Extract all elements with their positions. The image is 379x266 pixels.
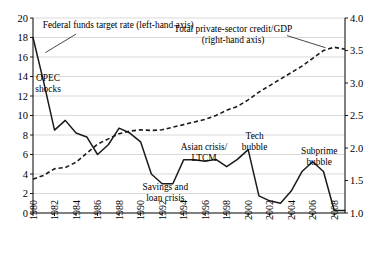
x-tick-label: 1980	[28, 200, 39, 220]
x-tick-label: 1986	[92, 200, 103, 220]
data-series-layer	[33, 38, 345, 211]
left-axis-ticks: 02468101214161820	[18, 13, 34, 219]
x-tick-label: 2000	[243, 200, 254, 220]
x-tick-label: 1996	[200, 200, 211, 220]
left-tick-label: 10	[18, 110, 29, 121]
left-tick-label: 16	[18, 52, 29, 63]
annotation-labels: Federal funds target rate (left-hand axi…	[35, 20, 337, 203]
x-tick-label: 1982	[49, 200, 60, 220]
x-tick-label: 2004	[286, 200, 297, 220]
x-tick-label: 1994	[178, 200, 189, 220]
subprime-bubble-label: Subprimebubble	[301, 146, 337, 167]
x-tick-label: 1998	[221, 200, 232, 220]
annotation-leader-lines	[45, 34, 325, 53]
right-tick-label: 4.0	[350, 13, 363, 24]
left-tick-label: 14	[18, 71, 29, 82]
right-tick-label: 1.5	[350, 175, 363, 186]
left-tick-label: 2	[23, 188, 28, 199]
left-tick-label: 20	[18, 13, 29, 24]
x-tick-label: 1984	[71, 200, 82, 220]
right-tick-label: 1.0	[350, 208, 363, 219]
opec-shocks-label: OPECshocks	[35, 73, 61, 94]
left-tick-label: 8	[23, 130, 28, 141]
left-tick-label: 18	[18, 32, 29, 43]
gridlines	[33, 18, 345, 194]
x-tick-label: 1990	[135, 200, 146, 220]
left-tick-label: 12	[18, 91, 29, 102]
federal-funds-label: Federal funds target rate (left-hand axi…	[43, 20, 194, 31]
right-axis-ticks: 1.01.52.02.53.03.54.0	[345, 13, 363, 219]
x-tick-label: 2006	[307, 200, 318, 220]
left-tick-label: 6	[23, 149, 28, 160]
right-tick-label: 2.0	[350, 143, 363, 154]
credit-gdp-label: Total private-sector credit/GDP(right-ha…	[174, 24, 292, 46]
left-tick-label: 4	[23, 169, 29, 180]
economic-line-chart: 02468101214161820 1.01.52.02.53.03.54.0 …	[0, 0, 379, 266]
x-axis-ticks: 1980198219841986198819901992199419961998…	[28, 200, 340, 220]
chart-container: 02468101214161820 1.01.52.02.53.03.54.0 …	[0, 0, 379, 266]
right-tick-label: 2.5	[350, 110, 363, 121]
right-tick-label: 3.0	[350, 78, 363, 89]
savings-loan-label: Savings andloan crisis	[143, 182, 189, 203]
leader-fed-funds	[45, 34, 76, 53]
x-tick-label: 2002	[264, 200, 275, 220]
right-tick-label: 3.5	[350, 45, 363, 56]
x-tick-label: 1988	[114, 200, 125, 220]
x-tick-label: 1992	[157, 200, 168, 220]
tech-bubble-label: Techbubble	[242, 131, 268, 152]
